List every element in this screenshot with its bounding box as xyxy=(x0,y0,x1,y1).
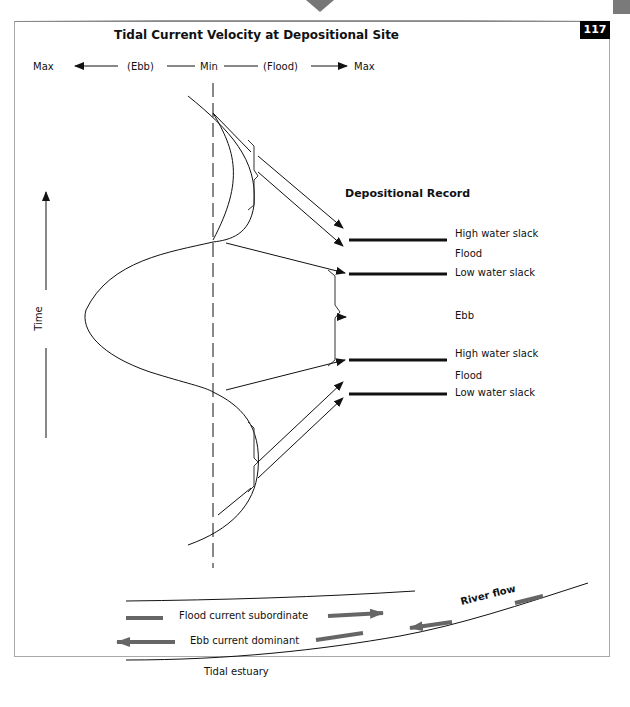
record-arrows xyxy=(226,156,346,478)
estuary-banks xyxy=(126,583,588,660)
brackets xyxy=(248,140,340,492)
current-arrows xyxy=(117,596,543,642)
depositional-layer-lines xyxy=(349,240,447,394)
diagram-drawing xyxy=(0,0,630,707)
